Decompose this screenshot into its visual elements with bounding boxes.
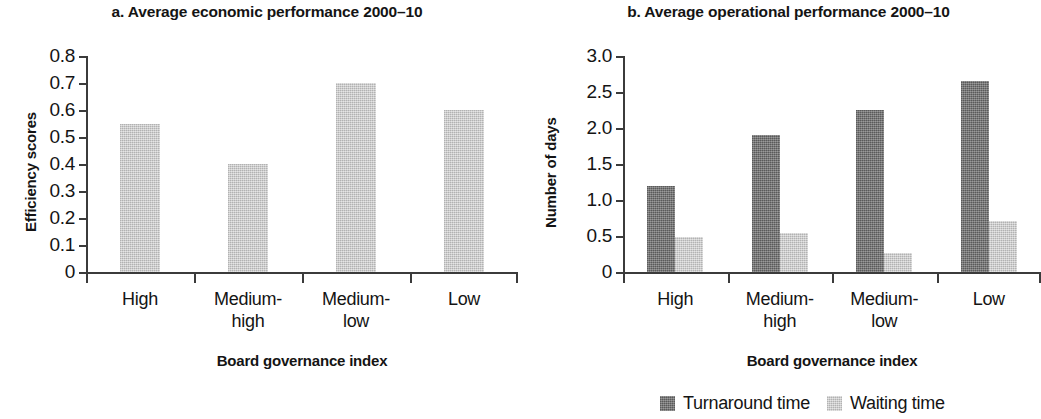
x-axis-category-label: Medium-low xyxy=(302,288,410,332)
y-axis-tick-label: 0.5 xyxy=(586,225,612,247)
panel-a-title: a. Average economic performance 2000–10 xyxy=(0,3,520,21)
x-axis-tick-mark xyxy=(516,274,518,283)
legend-swatch-waiting xyxy=(827,396,842,411)
y-axis-tick-label: 2.5 xyxy=(586,81,612,103)
panel-b-title: b. Average operational performance 2000–… xyxy=(520,3,1041,21)
panel-a-y-axis-line xyxy=(86,56,88,274)
x-axis-category-label: Low xyxy=(410,288,518,310)
x-axis-tick-mark xyxy=(832,274,834,283)
y-axis-tick-mark xyxy=(79,56,86,58)
category-label-line-1: Medium- xyxy=(322,289,390,309)
bar-efficiency-scores-low xyxy=(444,110,484,272)
chart-legend: Turnaround timeWaiting time xyxy=(660,393,945,414)
category-label-line-1: High xyxy=(657,289,693,309)
x-axis-category-label: Medium-high xyxy=(194,288,302,332)
bar-waiting-time-medium-high xyxy=(780,233,808,272)
bar-waiting-time-medium-low xyxy=(884,253,912,272)
bar-efficiency-scores-medium-high xyxy=(228,164,268,272)
y-axis-tick-label: 0.1 xyxy=(49,234,75,256)
y-axis-tick-mark xyxy=(616,128,623,130)
bar-waiting-time-high xyxy=(675,237,703,272)
y-axis-tick-mark xyxy=(79,164,86,166)
y-axis-tick-mark xyxy=(616,56,623,58)
legend-label: Turnaround time xyxy=(683,393,810,414)
x-axis-tick-mark xyxy=(728,274,730,283)
category-label-line-2: high xyxy=(194,310,302,332)
x-axis-tick-mark xyxy=(623,274,625,283)
legend-item-turnaround-time: Turnaround time xyxy=(660,393,810,414)
x-axis-category-label: Low xyxy=(937,288,1041,310)
y-axis-tick-mark xyxy=(616,272,623,274)
x-axis-category-label: Medium-high xyxy=(728,288,833,332)
y-axis-tick-mark xyxy=(616,200,623,202)
category-label-line-1: Medium- xyxy=(214,289,282,309)
y-axis-tick-mark xyxy=(616,236,623,238)
y-axis-tick-mark xyxy=(79,218,86,220)
bar-efficiency-scores-medium-low xyxy=(336,83,376,272)
legend-item-waiting-time: Waiting time xyxy=(827,393,945,414)
y-axis-tick-label: 1.5 xyxy=(586,153,612,175)
panel-a-plot-area: 00.10.20.30.40.50.60.70.8 xyxy=(86,56,518,274)
category-label-line-2: high xyxy=(728,310,833,332)
x-axis-tick-mark xyxy=(194,274,196,283)
panel-b-y-axis-line xyxy=(623,56,625,274)
panel-b-operational-performance: b. Average operational performance 2000–… xyxy=(520,0,1041,419)
y-axis-tick-mark xyxy=(79,137,86,139)
y-axis-tick-label: 0.6 xyxy=(49,99,75,121)
x-axis-tick-mark xyxy=(302,274,304,283)
bar-turnaround-time-low xyxy=(961,81,989,272)
x-axis-tick-mark xyxy=(86,274,88,283)
bar-turnaround-time-medium-low xyxy=(856,110,884,272)
panel-b-x-axis-label: Board governance index xyxy=(623,352,1041,369)
category-label-line-2: low xyxy=(832,310,937,332)
y-axis-tick-mark xyxy=(79,83,86,85)
y-axis-tick-label: 0 xyxy=(65,261,75,283)
category-label-line-2: low xyxy=(302,310,410,332)
y-axis-tick-label: 1.0 xyxy=(586,189,612,211)
bar-turnaround-time-high xyxy=(647,186,675,272)
category-label-line-1: Medium- xyxy=(746,289,814,309)
y-axis-tick-label: 0.5 xyxy=(49,126,75,148)
legend-label: Waiting time xyxy=(850,393,945,414)
bar-turnaround-time-medium-high xyxy=(752,135,780,272)
panel-a-economic-performance: a. Average economic performance 2000–10 … xyxy=(0,0,520,419)
y-axis-tick-mark xyxy=(79,245,86,247)
category-label-line-1: Low xyxy=(448,289,480,309)
category-label-line-1: High xyxy=(122,289,158,309)
panel-b-y-axis-label: Number of days xyxy=(542,117,559,228)
x-axis-category-label: High xyxy=(623,288,728,310)
y-axis-tick-label: 0.3 xyxy=(49,180,75,202)
y-axis-tick-label: 0.4 xyxy=(49,153,75,175)
two-panel-bar-chart-figure: a. Average economic performance 2000–10 … xyxy=(0,0,1041,419)
category-label-line-1: Low xyxy=(973,289,1005,309)
y-axis-tick-mark xyxy=(616,164,623,166)
bar-waiting-time-low xyxy=(989,221,1017,272)
y-axis-tick-label: 2.0 xyxy=(586,117,612,139)
y-axis-tick-label: 0.2 xyxy=(49,207,75,229)
x-axis-tick-mark xyxy=(410,274,412,283)
y-axis-tick-mark xyxy=(79,272,86,274)
bar-efficiency-scores-high xyxy=(120,124,160,273)
legend-swatch-turnaround xyxy=(660,396,675,411)
x-axis-category-label: High xyxy=(86,288,194,310)
y-axis-tick-label: 0.8 xyxy=(49,45,75,67)
x-axis-category-label: Medium-low xyxy=(832,288,937,332)
panel-a-y-axis-label: Efficiency scores xyxy=(22,112,39,232)
y-axis-tick-label: 3.0 xyxy=(586,45,612,67)
y-axis-tick-mark xyxy=(616,92,623,94)
y-axis-tick-label: 0.7 xyxy=(49,72,75,94)
x-axis-tick-mark xyxy=(937,274,939,283)
y-axis-tick-mark xyxy=(79,110,86,112)
category-label-line-1: Medium- xyxy=(850,289,918,309)
panel-b-plot-area: 00.51.01.52.02.53.0 xyxy=(623,56,1041,274)
y-axis-tick-mark xyxy=(79,191,86,193)
panel-a-x-axis-label: Board governance index xyxy=(86,352,518,369)
y-axis-tick-label: 0 xyxy=(602,261,612,283)
